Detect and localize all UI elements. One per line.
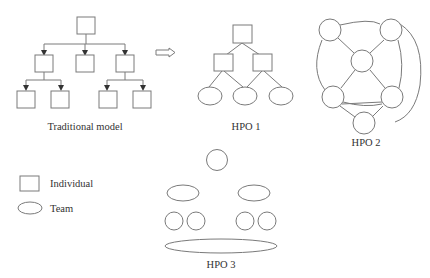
leaf-individual (133, 91, 151, 108)
leaf-individual (51, 91, 69, 108)
mid-individual-right (116, 55, 134, 72)
hpo2-node (322, 86, 344, 108)
legend-individual-label: Individual (50, 178, 93, 189)
traditional-model: Traditional model (17, 17, 151, 132)
hpo1-diagram: HPO 1 (198, 25, 293, 132)
hpo2-label: HPO 2 (352, 137, 381, 148)
hpo2-node (353, 112, 375, 134)
hpo2-diagram: HPO 2 (317, 19, 421, 148)
hpo3-individual-circle (236, 212, 254, 230)
mid-individual-left (35, 55, 53, 72)
root-individual (77, 17, 95, 34)
hpo1-label: HPO 1 (232, 121, 261, 132)
hpo3-individual-circle (187, 212, 205, 230)
legend-team-icon (18, 202, 42, 214)
hpo2-node (351, 50, 373, 72)
leaf-individual (99, 91, 117, 108)
diagram-canvas: Traditional model HPO 1 (0, 0, 430, 278)
hollow-right-arrow-icon (156, 48, 175, 57)
hpo1-team (198, 87, 222, 105)
hpo2-node (319, 19, 341, 41)
hpo1-top-individual (233, 25, 252, 43)
hpo3-team (167, 185, 199, 201)
legend: Individual Team (18, 176, 93, 214)
legend-team-label: Team (50, 203, 73, 214)
hpo3-diagram: HPO 3 (165, 150, 277, 271)
hpo1-mid-individual-left (214, 54, 233, 71)
hpo1-team (233, 87, 257, 105)
hpo3-individual-circle (258, 212, 276, 230)
hpo3-label: HPO 3 (207, 259, 236, 270)
hpo3-individual-circle (165, 212, 183, 230)
hpo3-team (238, 185, 270, 201)
mid-individual-center (76, 55, 94, 72)
hpo2-node (381, 86, 403, 108)
leaf-individual (17, 91, 35, 108)
hpo1-mid-individual-right (253, 54, 272, 71)
legend-individual-icon (20, 176, 39, 191)
hpo1-team (269, 87, 293, 105)
hpo2-node (380, 19, 402, 41)
hpo3-top-circle (207, 150, 228, 171)
traditional-model-label: Traditional model (47, 121, 122, 132)
hpo3-wide-team (165, 239, 277, 253)
